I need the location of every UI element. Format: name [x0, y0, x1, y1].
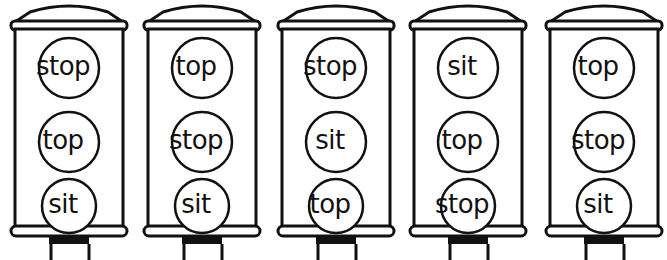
traffic-light: sittopstop	[404, 0, 532, 260]
light-word: stop	[0, 51, 127, 81]
light-word: stop	[132, 125, 260, 155]
light-word: top	[266, 189, 394, 219]
traffic-light: topstopsit	[138, 0, 266, 260]
light-word: sit	[132, 189, 260, 219]
light-word: sit	[534, 189, 662, 219]
light-word: top	[0, 125, 127, 155]
light-word: sit	[0, 189, 127, 219]
traffic-light: topstopsit	[540, 0, 667, 260]
light-word: top	[398, 125, 526, 155]
light-word: stop	[398, 189, 526, 219]
light-word: sit	[266, 125, 394, 155]
light-word: top	[132, 51, 260, 81]
light-word: top	[534, 51, 662, 81]
light-word: sit	[398, 51, 526, 81]
light-word: stop	[534, 125, 662, 155]
traffic-light: stopsittop	[272, 0, 400, 260]
light-word: stop	[266, 51, 394, 81]
traffic-light: stoptopsit	[5, 0, 133, 260]
